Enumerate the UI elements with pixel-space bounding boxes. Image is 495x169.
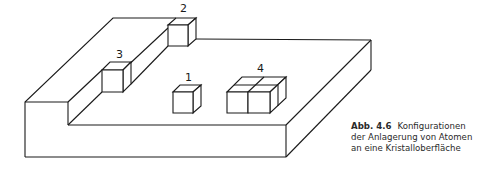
label-site-4: 4 [257,62,264,75]
label-site-2: 2 [180,2,187,15]
caption-line-1: Konfigurationen [397,121,465,131]
caption-line-3: an eine Kristalloberfläche [351,143,495,154]
atom-cluster-4 [227,77,286,113]
label-site-1: 1 [185,71,192,84]
caption-line-2: der Anlagerung von Atomen [351,132,495,143]
atom-cube-3 [102,62,131,92]
figure-caption: Abb. 4.6Konfigurationen der Anlagerung v… [351,121,495,154]
atom-cube-2 [168,18,196,46]
label-site-3: 3 [116,48,123,61]
figure-number: Abb. 4.6 [351,121,391,131]
atom-cube-1 [173,85,201,113]
